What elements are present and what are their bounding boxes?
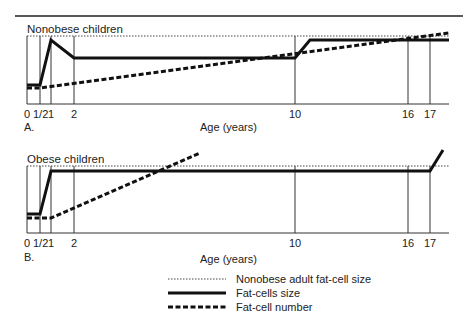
tick-b-2: 2 <box>71 237 77 249</box>
panel-a-chart <box>27 33 449 104</box>
legend-label-number: Fat-cell number <box>236 301 312 313</box>
panel-b-xlabel: Age (years) <box>200 253 257 265</box>
tick-a-half: 1/2 <box>33 108 48 120</box>
tick-a-0: 0 <box>24 108 30 120</box>
tick-a-16: 16 <box>402 108 414 120</box>
legend-label-reference: Nonobese adult fat-cell size <box>236 273 371 285</box>
tick-b-1: 1 <box>48 237 54 249</box>
tick-b-half: 1/2 <box>33 237 48 249</box>
tick-gridlines-b <box>27 166 430 233</box>
tick-b-16: 16 <box>402 237 414 249</box>
tick-a-17: 17 <box>424 108 436 120</box>
legend-label-size: Fat-cells size <box>236 287 300 299</box>
tick-b-17: 17 <box>424 237 436 249</box>
tick-a-10: 10 <box>289 108 301 120</box>
tick-a-1: 1 <box>48 108 54 120</box>
tick-b-0: 0 <box>24 237 30 249</box>
fat-cell-number-line-a <box>27 33 449 88</box>
panel-b-label: B. <box>24 251 34 263</box>
panel-a-label: A. <box>24 121 34 133</box>
panel-a-title: Nonobese children <box>27 23 123 35</box>
tick-a-2: 2 <box>71 108 77 120</box>
panel-b-title: Obese children <box>27 153 104 165</box>
legend-swatches <box>168 279 226 307</box>
panel-a-xlabel: Age (years) <box>200 121 257 133</box>
tick-b-10: 10 <box>289 237 301 249</box>
tick-gridlines-a <box>27 36 430 104</box>
